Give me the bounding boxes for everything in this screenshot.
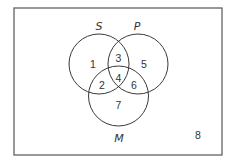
set-p-label: P xyxy=(134,20,141,33)
region-6-label: 6 xyxy=(131,79,137,91)
set-s-label: S xyxy=(96,20,103,33)
region-8-label: 8 xyxy=(195,129,201,141)
set-p-circle xyxy=(108,34,168,94)
venn-diagram: S P M 1 2 3 4 5 6 7 8 xyxy=(0,0,236,162)
set-m-label: M xyxy=(114,132,124,145)
region-2-label: 2 xyxy=(99,79,105,91)
region-5-label: 5 xyxy=(141,58,147,70)
region-3-label: 3 xyxy=(116,52,122,64)
region-4-label: 4 xyxy=(116,72,122,84)
region-1-label: 1 xyxy=(90,58,96,70)
region-7-label: 7 xyxy=(116,99,122,111)
